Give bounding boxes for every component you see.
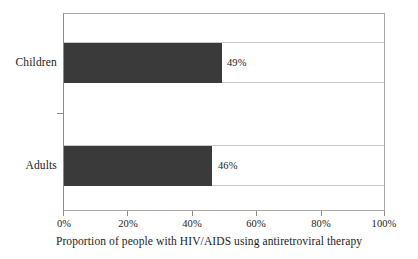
x-axis-tick [321,211,322,216]
x-axis-title: Proportion of people with HIV/AIDS using… [0,235,418,247]
x-axis-tick-label: 80% [311,218,331,229]
x-axis-tick-label: 40% [182,218,202,229]
bar-children [64,43,222,83]
bar-chart: 49% 46% Children Adults 0% 20% 40% 60% 8… [0,0,418,259]
bar-value-children: 49% [227,57,247,68]
x-axis-tick [256,211,257,216]
y-axis-tick [57,113,63,114]
x-axis-tick-label: 100% [372,218,397,229]
x-axis-tick [384,211,385,216]
x-axis-tick [63,211,64,216]
x-axis-tick-label: 20% [118,218,138,229]
x-axis-tick [127,211,128,216]
x-axis-tick-label: 60% [246,218,266,229]
plot-area [63,13,385,211]
x-axis-tick-label: 0% [57,218,71,229]
category-label-children: Children [16,56,57,68]
bar-value-adults: 46% [218,160,238,171]
category-label-adults: Adults [25,159,57,171]
x-axis-tick [192,211,193,216]
bar-adults [64,146,212,186]
